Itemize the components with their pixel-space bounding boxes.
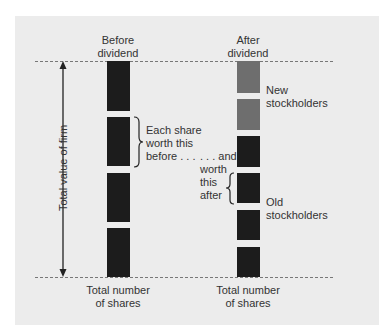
after-share-block-4-old	[237, 173, 260, 203]
old-stockholders-label: Old stockholders	[266, 196, 328, 222]
old-stockholders-line1: Old	[266, 196, 328, 209]
before-share-block-4-old	[107, 228, 130, 277]
after-share-block-3-old	[237, 136, 260, 167]
new-stockholders-label: New stockholders	[266, 84, 328, 110]
and-worth-annotation: . . . and worth this after	[200, 150, 237, 202]
before-share-block-1-old	[107, 61, 130, 111]
bottom-dashed-line	[35, 277, 333, 278]
each-share-annotation: Each share worth this before . . .	[146, 124, 202, 163]
total-shares-left-label: Total number of shares	[78, 284, 158, 310]
new-stockholders-line1: New	[266, 84, 328, 97]
top-dashed-line	[35, 61, 333, 62]
each-share-line2: worth this	[146, 137, 202, 150]
and-worth-line2: worth	[200, 163, 237, 176]
total-value-label: Total value of firm	[57, 113, 69, 223]
total-shares-right-line1: Total number	[208, 284, 288, 297]
after-share-block-1-new	[237, 61, 260, 93]
and-worth-line1: . . . and	[200, 150, 237, 163]
after-share-block-6-old	[237, 247, 260, 277]
before-title-line2: dividend	[88, 47, 148, 60]
after-title-line1: After	[218, 34, 278, 47]
after-title-line2: dividend	[218, 47, 278, 60]
each-share-line3: before . . .	[146, 150, 202, 163]
total-shares-left-line2: of shares	[78, 297, 158, 310]
and-worth-line4: after	[200, 189, 237, 202]
and-worth-line3: this	[200, 176, 237, 189]
total-shares-left-line1: Total number	[78, 284, 158, 297]
total-shares-right-label: Total number of shares	[208, 284, 288, 310]
before-dividend-title: Before dividend	[88, 34, 148, 60]
new-stockholders-line2: stockholders	[266, 97, 328, 110]
before-share-block-2-old	[107, 117, 130, 166]
before-title-line1: Before	[88, 34, 148, 47]
each-share-line1: Each share	[146, 124, 202, 137]
after-share-block-2-new	[237, 99, 260, 130]
right-brace-icon	[132, 116, 144, 168]
before-share-block-3-old	[107, 173, 130, 222]
old-stockholders-line2: stockholders	[266, 209, 328, 222]
total-shares-right-line2: of shares	[208, 297, 288, 310]
after-share-block-5-old	[237, 210, 260, 240]
after-dividend-title: After dividend	[218, 34, 278, 60]
